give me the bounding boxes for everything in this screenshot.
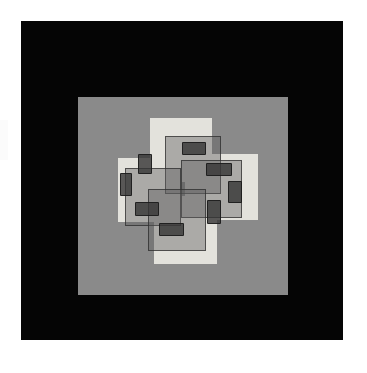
artwork-gray-ground (78, 97, 288, 295)
paper-edge-highlight (0, 120, 8, 160)
veil-square-lower (148, 189, 206, 251)
chip-lower-right (207, 200, 221, 224)
chip-bottom (159, 223, 184, 236)
chip-left (120, 173, 132, 196)
artwork-page (0, 0, 367, 373)
chip-top (182, 142, 206, 155)
chip-lower-left (135, 202, 159, 216)
chip-mid-right (206, 163, 232, 176)
chip-right (228, 181, 242, 203)
artwork-black-frame (21, 21, 343, 340)
geometric-composition (78, 97, 288, 295)
chip-upper-left (138, 154, 152, 174)
